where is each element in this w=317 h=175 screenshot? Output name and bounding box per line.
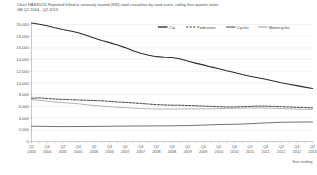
- x-tick-label-quarter: Q2: [154, 145, 159, 149]
- y-tick-label: 10,000: [16, 81, 29, 86]
- x-tick-label-quarter: Q2: [248, 145, 253, 149]
- chart-container: Chart RAS45011 Reported killed or seriou…: [0, 0, 317, 175]
- y-tick-label: 4,000: [19, 116, 30, 121]
- y-tick-label: 8,000: [19, 92, 30, 97]
- y-tick-label: 2,000: [19, 127, 30, 132]
- x-tick-label-year: 2013: [308, 150, 316, 154]
- x-tick-label-year: 2010: [215, 150, 223, 154]
- x-tick-label-quarter: Q2: [60, 145, 65, 149]
- x-tick-label-quarter: Q4: [294, 145, 299, 149]
- y-tick-label: 12,000: [16, 69, 29, 74]
- gridlines: [32, 25, 313, 130]
- x-tick-label-year: 2008: [168, 150, 176, 154]
- legend-label-motorcyclist: Motorcyclist: [269, 25, 290, 30]
- y-axis-ticks: 20,00018,00016,00014,00012,00010,0008,00…: [16, 22, 31, 144]
- x-tick-label-year: 2012: [293, 150, 301, 154]
- x-tick-label-year: 2011: [262, 150, 270, 154]
- x-tick-label-quarter: Q2: [185, 145, 190, 149]
- x-tick-label-year: 2011: [246, 150, 254, 154]
- x-tick-label-quarter: Q2: [310, 145, 315, 149]
- plot-area: 20,00018,00016,00014,00012,00010,0008,00…: [0, 0, 317, 175]
- x-tick-label-quarter: Q4: [263, 145, 268, 149]
- x-tick-label-year: 2004: [27, 150, 35, 154]
- axis-lines: [32, 23, 313, 142]
- x-tick-label-year: 2006: [105, 150, 113, 154]
- data-series: [32, 23, 313, 127]
- y-tick-label: 16,000: [16, 45, 29, 50]
- x-tick-label-quarter: Q4: [76, 145, 81, 149]
- legend-label-cyclist: Cyclist: [237, 25, 249, 30]
- x-tick-label-year: 2009: [199, 150, 207, 154]
- y-tick-label: 0: [27, 139, 30, 144]
- x-tick-label-year: 2005: [74, 150, 82, 154]
- x-tick-label-quarter: Q2: [216, 145, 221, 149]
- x-tick-label-year: 2004: [43, 150, 51, 154]
- legend-label-car: Car: [169, 25, 176, 30]
- x-tick-label-quarter: Q4: [201, 145, 206, 149]
- x-tick-label-quarter: Q4: [138, 145, 143, 149]
- x-tick-label-year: 2005: [58, 150, 66, 154]
- x-tick-label-quarter: Q2: [123, 145, 128, 149]
- x-tick-label-year: 2008: [152, 150, 160, 154]
- x-tick-label-quarter: Q4: [169, 145, 174, 149]
- x-axis-title: Year ending: [292, 159, 313, 164]
- x-tick-label-quarter: Q2: [29, 145, 34, 149]
- x-axis-ticks: Q22004Q42004Q22005Q42005Q22006Q42006Q220…: [27, 142, 316, 154]
- series-line-cyclist: [32, 122, 313, 127]
- x-tick-label-year: 2007: [121, 150, 129, 154]
- y-tick-label: 18,000: [16, 34, 29, 39]
- legend-label-pedestrian: Pedestrian: [197, 25, 216, 30]
- x-tick-label-year: 2012: [277, 150, 285, 154]
- line-chart-svg: 20,00018,00016,00014,00012,00010,0008,00…: [0, 0, 317, 175]
- x-tick-label-year: 2010: [230, 150, 238, 154]
- y-tick-label: 6,000: [19, 104, 30, 109]
- x-tick-label-quarter: Q4: [107, 145, 112, 149]
- y-tick-label: 14,000: [16, 57, 29, 62]
- chart-legend: CarPedestrianCyclistMotorcyclist: [158, 25, 291, 30]
- x-tick-label-year: 2006: [90, 150, 98, 154]
- x-tick-label-quarter: Q2: [91, 145, 96, 149]
- series-line-motorcyclist: [32, 100, 313, 110]
- x-tick-label-year: 2009: [183, 150, 191, 154]
- x-tick-label-quarter: Q2: [279, 145, 284, 149]
- x-tick-label-year: 2007: [137, 150, 145, 154]
- series-line-car: [32, 23, 313, 89]
- x-tick-label-quarter: Q4: [232, 145, 237, 149]
- x-tick-label-quarter: Q4: [45, 145, 50, 149]
- y-tick-label: 20,000: [16, 22, 29, 27]
